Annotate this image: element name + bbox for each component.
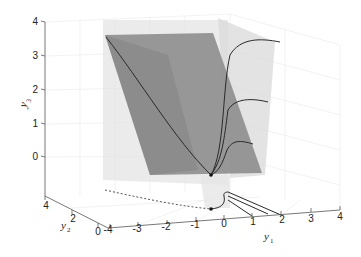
3d-plot: 4 3 2 1 0 4 2 0 -4 -3 -2 -1 0 1 2 3 4 y … bbox=[0, 0, 361, 257]
y2-axis bbox=[45, 196, 108, 228]
svg-text:0: 0 bbox=[32, 151, 38, 162]
svg-text:0: 0 bbox=[95, 226, 101, 237]
svg-text:3: 3 bbox=[308, 213, 314, 224]
svg-text:3: 3 bbox=[32, 50, 38, 61]
y1-axis-label: y 1 bbox=[263, 230, 274, 245]
svg-text:-1: -1 bbox=[191, 219, 200, 230]
y2-tick-labels: 4 2 0 bbox=[43, 200, 101, 237]
svg-text:4: 4 bbox=[43, 200, 49, 211]
floor-projection-2 bbox=[228, 196, 268, 214]
svg-text:1: 1 bbox=[250, 216, 256, 227]
svg-text:0: 0 bbox=[221, 218, 227, 229]
svg-text:1: 1 bbox=[270, 237, 274, 245]
svg-text:4: 4 bbox=[32, 16, 38, 27]
minimum-point bbox=[209, 173, 213, 177]
svg-text:2: 2 bbox=[32, 84, 38, 95]
svg-text:y: y bbox=[263, 230, 269, 242]
z-axis-label: y 3 bbox=[16, 96, 33, 111]
svg-text:-2: -2 bbox=[162, 221, 171, 232]
svg-text:2: 2 bbox=[279, 214, 285, 225]
svg-text:2: 2 bbox=[70, 213, 76, 224]
floor-projection-3 bbox=[228, 200, 252, 216]
light-column bbox=[200, 175, 230, 208]
svg-text:-4: -4 bbox=[104, 224, 113, 235]
y1-tick-labels: -4 -3 -2 -1 0 1 2 3 4 bbox=[104, 211, 344, 235]
minimum-projection-point bbox=[209, 207, 213, 211]
svg-text:1: 1 bbox=[32, 118, 38, 129]
svg-text:4: 4 bbox=[337, 211, 343, 222]
z-tick-labels: 4 3 2 1 0 bbox=[32, 16, 38, 162]
svg-text:-3: -3 bbox=[133, 223, 142, 234]
floor-projection-1 bbox=[228, 192, 281, 215]
parabola-projection bbox=[105, 190, 211, 209]
svg-text:3: 3 bbox=[25, 98, 34, 104]
svg-text:y: y bbox=[60, 219, 66, 231]
svg-text:2: 2 bbox=[67, 226, 71, 234]
